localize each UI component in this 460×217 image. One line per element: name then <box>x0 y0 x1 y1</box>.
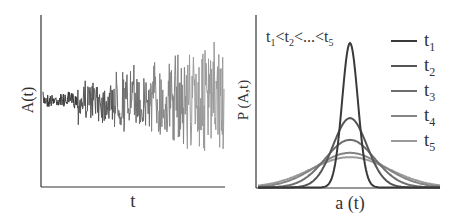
segment-t5 <box>186 42 224 151</box>
segment-t4 <box>150 55 186 144</box>
time-series-line <box>43 42 224 151</box>
segment-t2 <box>78 81 114 125</box>
time-series-plot: t A(t) <box>19 15 225 211</box>
left-y-label: A(t) <box>19 87 37 114</box>
legend-label-t1: t1 <box>424 29 435 54</box>
right-y-label: P (A,t) <box>235 80 252 120</box>
figure: t A(t) a (t) P (A,t) t1<t2<...<t5 t1t2t3… <box>0 0 460 217</box>
legend-label-t2: t2 <box>424 54 435 79</box>
legend: t1t2t3t4t5 <box>391 29 435 154</box>
right-x-label: a (t) <box>335 193 364 214</box>
legend-label-t3: t3 <box>424 79 435 104</box>
distribution-plot: a (t) P (A,t) t1<t2<...<t5 t1t2t3t4t5 <box>235 15 440 214</box>
legend-label-t5: t5 <box>424 129 435 154</box>
ordering-annotation: t1<t2<...<t5 <box>266 28 333 48</box>
legend-label-t4: t4 <box>424 104 435 129</box>
left-x-label: t <box>130 190 136 211</box>
segment-t1 <box>43 92 78 108</box>
segment-t3 <box>114 65 150 132</box>
